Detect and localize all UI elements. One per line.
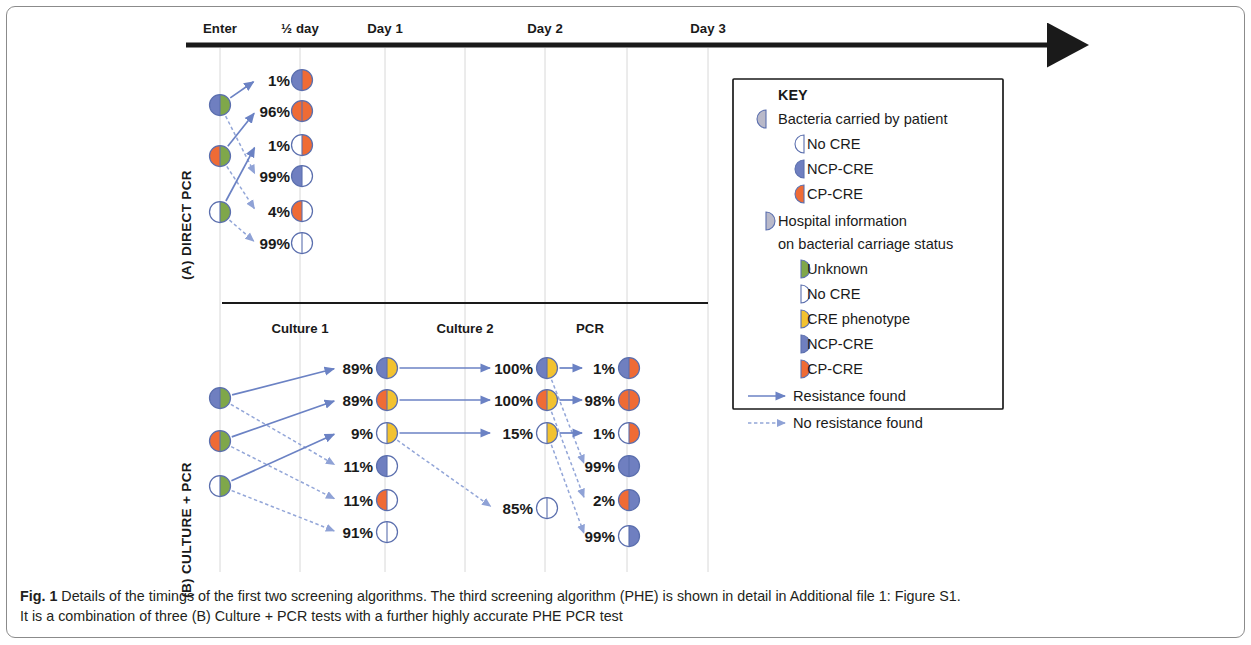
panel-b-edge-c2-pcr-1 <box>552 380 584 464</box>
panel-b-edge-start-c1-2 <box>232 401 334 437</box>
panel-a-outcome-percent-2: 1% <box>268 137 290 154</box>
panel-a-outcome-circle-5 <box>292 233 313 254</box>
caption-prefix: Fig. 1 <box>20 588 57 604</box>
panel-b-culture1-node-circle-5 <box>377 522 398 543</box>
panel-b-culture1-node-3: 11% <box>343 456 397 477</box>
key-hospital-item-3: NCP-CRE <box>807 336 874 352</box>
panel-b-pcr-node-percent-5: 99% <box>585 528 616 545</box>
panel-b-culture1-node-4: 11% <box>343 490 397 511</box>
panel-b-culture2-node-3: 85% <box>503 498 558 519</box>
panel-a-edge-5 <box>229 220 253 241</box>
panel-b-start-node-2 <box>210 476 231 497</box>
panel-b-culture1-node-circle-1 <box>377 390 398 411</box>
panel-a-outcome-percent-3: 99% <box>260 168 291 185</box>
panel-b-pcr-node-circle-2 <box>619 423 640 444</box>
panel-b-culture2-node-percent-3: 85% <box>503 500 534 517</box>
panel-b-edge-start-c1-3 <box>231 447 334 499</box>
panel-b-pcr-nodes: 1%98%1%99%2%99% <box>585 358 640 547</box>
panel-b-label: (B) CULTURE + PCR <box>179 462 194 598</box>
panel-a-outcome-4: 4% <box>268 201 312 222</box>
column-header-2: PCR <box>576 321 604 336</box>
panel-b-edge-c2-pcr-3 <box>551 412 583 498</box>
panel-b-pcr-node-percent-0: 1% <box>593 360 615 377</box>
panel-b-culture2-node-percent-1: 100% <box>494 392 533 409</box>
panel-b-culture2-node-percent-2: 15% <box>503 425 534 442</box>
panel-b-pcr-node-percent-3: 99% <box>585 458 616 475</box>
panel-b-pcr-node-5: 99% <box>585 526 640 547</box>
panel-b-pcr-node-percent-1: 98% <box>585 392 616 409</box>
timeline-label-1: ½ day <box>281 21 319 36</box>
panel-b-culture2-node-1: 100% <box>494 390 557 411</box>
key-section2-label-2: on bacterial carriage status <box>778 236 953 252</box>
panel-b-pcr-node-circle-0 <box>619 358 640 379</box>
key-hospital-item-1: No CRE <box>807 286 861 302</box>
panel-b-pcr-node-circle-3 <box>619 456 640 477</box>
panel-a-outcome-circle-3 <box>292 166 313 187</box>
panel-a-outcome-percent-4: 4% <box>268 203 290 220</box>
panel-b-culture2-node-0: 100% <box>494 358 557 379</box>
panel-b-culture1-node-percent-1: 89% <box>343 392 374 409</box>
panel-b-pcr-node-4: 2% <box>593 490 639 511</box>
panel-b-start-node-0 <box>210 388 231 409</box>
panel-b-culture1-node-percent-0: 89% <box>343 360 374 377</box>
panel-b-culture1-node-circle-3 <box>377 456 398 477</box>
timeline-label-0: Enter <box>203 21 237 36</box>
panel-b-culture2-node-circle-2 <box>537 423 558 444</box>
panel-a-start-node-0 <box>210 95 231 116</box>
key-bacteria-item-2: CP-CRE <box>807 186 863 202</box>
panel-b-culture2-node-2: 15% <box>503 423 558 444</box>
key-hospital-item-0: Unknown <box>807 261 868 277</box>
panel-b-column-headers: Culture 1Culture 2PCR <box>271 321 604 336</box>
panel-b-culture1-node-0: 89% <box>343 358 398 379</box>
panel-a-outcome-1: 96% <box>260 101 313 122</box>
panel-a-start-node-2 <box>210 202 231 223</box>
panel-a-outcome-circle-0 <box>292 70 313 91</box>
panel-b-culture1-node-percent-5: 91% <box>343 524 374 541</box>
panel-b-pcr-node-1: 98% <box>585 390 640 411</box>
figure-svg: Enter½ dayDay 1Day 2Day 3 (A) DIRECT PCR… <box>0 0 1251 645</box>
timeline-label-2: Day 1 <box>367 21 403 36</box>
timeline-labels-group: Enter½ dayDay 1Day 2Day 3 <box>203 21 726 36</box>
panel-a-outcome-percent-1: 96% <box>260 103 291 120</box>
key-bacteria-item-1: NCP-CRE <box>807 161 874 177</box>
panel-a-outcome-5: 99% <box>260 233 313 254</box>
panel-a-outcome-3: 99% <box>260 166 313 187</box>
panel-b-culture1-node-circle-2 <box>377 423 398 444</box>
panel-b-edge-c2-pcr-5 <box>551 445 584 533</box>
figure-caption: Fig. 1 Details of the timings of the fir… <box>20 586 1235 626</box>
key-hospital-item-4: CP-CRE <box>807 361 863 377</box>
column-header-0: Culture 1 <box>271 321 328 336</box>
key-title: KEY <box>778 87 808 103</box>
panel-b-start-nodes <box>210 388 231 497</box>
panel-b-culture1-node-percent-4: 11% <box>343 492 373 509</box>
panel-b-culture2-nodes: 100%100%15%85% <box>494 358 557 519</box>
panel-b-culture1-nodes: 89%89%9%11%11%91% <box>343 358 398 543</box>
panel-b-culture1-node-circle-4 <box>377 490 398 511</box>
panel-b-culture1-node-2: 9% <box>351 423 397 444</box>
column-header-1: Culture 2 <box>436 321 493 336</box>
panel-b-culture1-node-1: 89% <box>343 390 398 411</box>
panel-a-outcome-circle-1 <box>292 101 313 122</box>
panel-b-culture1-node-5: 91% <box>343 522 398 543</box>
panel-b-edge-start-c1-5 <box>232 491 335 531</box>
panel-b-culture1-node-percent-3: 11% <box>343 458 373 475</box>
panel-b-culture1-node-percent-2: 9% <box>351 425 373 442</box>
key-hospital-item-2: CRE phenotype <box>807 311 910 327</box>
panel-b-pcr-node-circle-5 <box>619 526 640 547</box>
panel-b-pcr-node-circle-1 <box>619 390 640 411</box>
key-section1-label: Bacteria carried by patient <box>778 111 948 127</box>
panel-a-outcome-percent-5: 99% <box>260 235 291 252</box>
figure-root: Enter½ dayDay 1Day 2Day 3 (A) DIRECT PCR… <box>0 0 1251 645</box>
panel-a-outcome-percent-0: 1% <box>268 72 290 89</box>
panel-b-start-node-1 <box>210 431 231 452</box>
timeline-label-3: Day 2 <box>527 21 563 36</box>
panel-b-culture2-node-percent-0: 100% <box>494 360 533 377</box>
key-arrow-item-0: Resistance found <box>793 388 906 404</box>
caption-line-1: Details of the timings of the first two … <box>61 588 960 604</box>
panel-b-edge-start-c1-1 <box>231 404 335 464</box>
panel-b-edge-c1-c2-3 <box>397 440 490 506</box>
panel-a-label: (A) DIRECT PCR <box>179 170 194 280</box>
panel-b-pcr-node-percent-2: 1% <box>593 425 615 442</box>
panel-a-start-nodes <box>210 95 231 223</box>
panel-b-pcr-node-2: 1% <box>593 423 639 444</box>
